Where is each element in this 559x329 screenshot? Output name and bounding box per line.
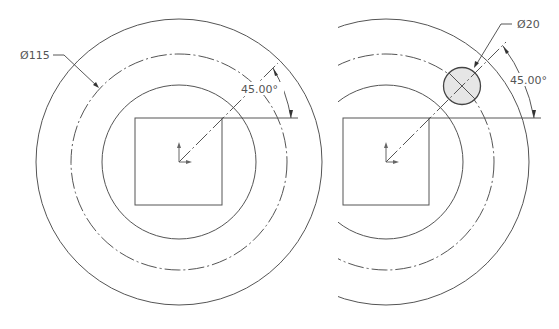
diameter-leader[interactable]	[476, 24, 512, 65]
left-view: 45.00° Ø115	[20, 19, 322, 305]
arrow-icon	[532, 110, 536, 118]
angle-centerline[interactable]	[179, 63, 278, 162]
drawing-canvas: 45.00° Ø115 45.00°	[0, 0, 559, 329]
right-view: 45.00° Ø20	[243, 18, 553, 305]
diameter-leader[interactable]	[53, 55, 97, 86]
angle-centerline[interactable]	[386, 42, 506, 162]
origin-icon	[384, 142, 399, 164]
arrow-icon	[289, 110, 293, 118]
arrow-icon	[273, 68, 278, 76]
origin-icon	[177, 142, 192, 164]
angle-label[interactable]: 45.00°	[510, 74, 547, 87]
diameter-label[interactable]: Ø20	[517, 18, 540, 31]
diameter-label[interactable]: Ø115	[20, 49, 50, 62]
angle-label[interactable]: 45.00°	[241, 83, 278, 96]
